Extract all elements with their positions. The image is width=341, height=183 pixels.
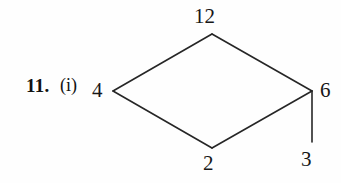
node-label-left: 4 <box>92 80 103 101</box>
edge-left-to-bottom <box>113 91 212 148</box>
node-label-top: 12 <box>194 6 215 27</box>
node-label-pendant: 3 <box>301 149 312 170</box>
edge-top-to-right <box>212 34 312 91</box>
diamond-diagram-graphic <box>0 0 341 183</box>
edge-bottom-to-right <box>212 91 312 148</box>
node-label-right: 6 <box>320 80 331 101</box>
diagram-page: 11. (i) 4 12 6 2 3 <box>0 0 341 183</box>
edge-left-to-top <box>113 34 212 91</box>
node-label-bottom: 2 <box>203 153 214 174</box>
